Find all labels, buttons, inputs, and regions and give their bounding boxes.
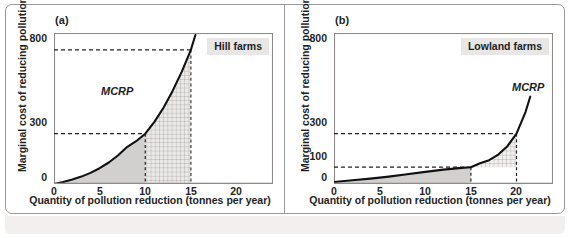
figure-bottom-band <box>5 216 565 234</box>
panel-b-ytick-100: 100 <box>294 150 327 162</box>
panel-a-xtick-20: 20 <box>226 185 246 197</box>
panel-b-xtick-0: 0 <box>324 185 344 197</box>
panel-a-mcrp-label: MCRP <box>101 85 133 97</box>
panel-b-ytick-0: 0 <box>294 171 327 183</box>
panel-a-corner-label: Hill farms <box>207 38 269 55</box>
panel-a-ytick-800: 800 <box>14 32 47 44</box>
panel-b: (b) Marginal cost of reducing pollution … <box>285 4 569 214</box>
panel-b-ytick-300: 300 <box>294 116 327 128</box>
panel-b-plot-area: Lowland farms MCRP <box>334 33 553 184</box>
panel-b-xtick-20: 20 <box>506 185 526 197</box>
panel-a-tag: (a) <box>55 14 69 26</box>
panel-a-xtick-0: 0 <box>44 185 64 197</box>
panel-a-xtick-15: 15 <box>181 185 201 197</box>
panel-a: (a) Marginal cost of reducing pollution … <box>5 4 289 214</box>
panel-b-mcrp-label: MCRP <box>512 81 544 93</box>
panel-a-xtick-10: 10 <box>135 185 155 197</box>
panel-a-plot-area: Hill farms MCRP <box>54 33 273 184</box>
panel-b-xtick-10: 10 <box>415 185 435 197</box>
panel-b-tag: (b) <box>335 14 349 26</box>
panel-a-xtick-5: 5 <box>90 185 110 197</box>
panel-b-xtick-15: 15 <box>461 185 481 197</box>
panel-a-ytick-300: 300 <box>14 116 47 128</box>
panel-b-corner-label: Lowland farms <box>461 38 549 55</box>
panel-a-ytick-0: 0 <box>14 171 47 183</box>
panel-b-ytick-800: 800 <box>294 32 327 44</box>
panel-b-xtick-5: 5 <box>370 185 390 197</box>
